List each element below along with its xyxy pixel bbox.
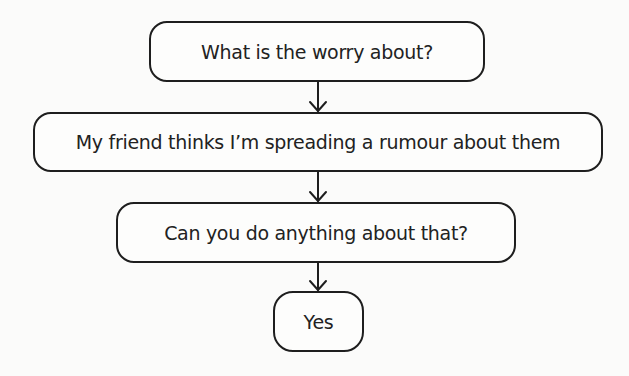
flowchart-node-yes-answer: Yes (273, 291, 364, 352)
arrow-n1-to-n2 (310, 82, 326, 111)
node-label: What is the worry about? (201, 41, 433, 63)
arrow-n2-to-n3 (310, 172, 326, 201)
node-label: Can you do anything about that? (164, 222, 468, 244)
flowchart-node-worry-question: What is the worry about? (149, 21, 485, 82)
flowchart-node-can-you-act-question: Can you do anything about that? (116, 202, 516, 263)
arrow-n3-to-n4 (310, 263, 326, 290)
node-label: My friend thinks I’m spreading a rumour … (76, 131, 561, 153)
flowchart-node-rumour-worry: My friend thinks I’m spreading a rumour … (33, 112, 603, 172)
node-label: Yes (304, 311, 334, 333)
